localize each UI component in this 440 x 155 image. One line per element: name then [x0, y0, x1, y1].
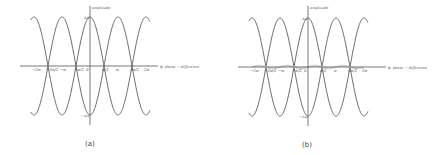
panel-caption: (b)	[302, 141, 312, 149]
x-axis-label: ϕ, phase − difference	[388, 66, 427, 70]
x-tick-label: −π	[60, 67, 66, 72]
x-tick-label: −2π	[250, 68, 259, 73]
x-tick-label: π	[115, 67, 119, 72]
y-min-label: −ΔA	[81, 114, 90, 118]
x-tick-label: 0	[304, 68, 307, 73]
x-tick-label: −3π/2	[264, 68, 277, 73]
x-tick-label: −3π/2	[46, 67, 59, 72]
y-axis-label: amplitude	[310, 6, 328, 10]
figure-canvas: amplitudeϕ, phase − differenceΔA−ΔA−2π−3…	[0, 0, 440, 155]
x-tick-label: π/2	[319, 68, 327, 73]
panel-caption: (a)	[85, 140, 95, 148]
y-max-label: ΔA	[83, 16, 90, 20]
panel-b: amplitudeϕ, phase − differenceΔA−ΔA−2π−3…	[238, 6, 427, 149]
x-tick-label: −2π	[32, 67, 41, 72]
x-tick-label: 0	[86, 67, 89, 72]
x-axis-label: ϕ, phase − difference	[160, 65, 199, 69]
x-tick-label: π/2	[101, 67, 109, 72]
x-tick-label: 2π	[143, 67, 150, 72]
x-tick-label: π	[333, 68, 337, 73]
x-tick-label: 2π	[361, 68, 368, 73]
x-tick-label: −π	[278, 68, 284, 73]
x-tick-label: −π/2	[74, 67, 84, 72]
x-tick-label: 3π/2	[130, 67, 140, 72]
y-axis-label: amplitude	[92, 6, 110, 10]
panel-a: amplitudeϕ, phase − differenceΔA−ΔA−2π−3…	[20, 6, 199, 148]
x-tick-label: −π/2	[292, 68, 302, 73]
y-max-label: ΔA	[301, 17, 308, 21]
y-min-label: −ΔA	[299, 115, 308, 119]
x-tick-label: 3π/2	[348, 68, 358, 73]
